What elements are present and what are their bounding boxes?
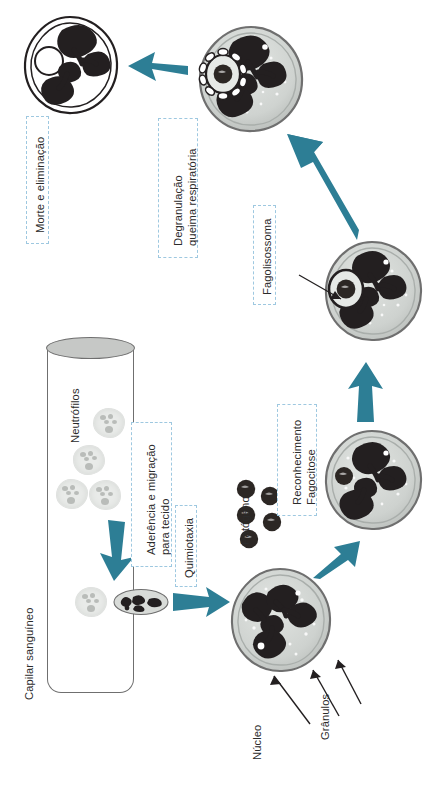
callout-degranulacao: Degranulação queima respiratória: [158, 118, 198, 258]
callout-aderencia-migracao: Aderência e migração para tecido: [131, 422, 172, 567]
vessel-neutrophil-migrating: [75, 587, 107, 617]
arrow-death-elimination: [126, 50, 188, 92]
callout-quimiotaxia-text: Quimiotaxia: [182, 518, 197, 578]
label-neutrofilos-text: Neutrófilos: [68, 388, 83, 443]
label-capilar-sanguineo-text: Capilar sanguíneo: [22, 607, 37, 700]
vessel-neutrophil: [93, 408, 125, 438]
arrow-degranulation: [283, 130, 361, 242]
arrow-to-phagolysosome: [345, 360, 387, 422]
callout-reconhecimento-fagocitose: Reconhecimento Fagocitose: [277, 404, 317, 516]
arrow-chemotaxis: [173, 587, 231, 619]
callout-fagolisossoma: Fagolisossoma: [253, 205, 276, 305]
callout-aderencia-line2: para tecido: [158, 499, 173, 555]
diagram-canvas: Capilar sanguíneo Neutrófilos: [0, 0, 430, 796]
label-patogeno-text: Patógeno: [238, 496, 253, 545]
degranulating-vacuole: [198, 49, 248, 100]
callout-quimiotaxia: Quimiotaxia: [175, 505, 197, 587]
callout-degranulacao-line1: Degranulação: [171, 175, 186, 246]
capillary-top-ellipse: [46, 337, 135, 359]
engulfed-pathogen: [335, 467, 353, 485]
pointer-granulos-b: [330, 648, 368, 708]
callout-degranulacao-line2: queima respiratória: [185, 148, 200, 246]
diapedesis-cell: [113, 587, 169, 617]
vessel-neutrophil: [73, 445, 105, 475]
label-nucleo-text: Núcleo: [250, 725, 265, 760]
callout-reconhecimento-line2: Fagocitose: [304, 449, 319, 505]
neutrophil-cell-degranulation: [197, 24, 305, 134]
callout-morte-eliminacao: Morte e eliminação: [26, 116, 49, 244]
neutrophil-cell-phagocytosis: [322, 428, 424, 532]
callout-reconhecimento-line1: Reconhecimento: [290, 420, 305, 505]
pointer-fagolisossoma: [297, 272, 353, 304]
callout-morte-text: Morte e eliminação: [33, 137, 48, 233]
vessel-neutrophil: [89, 480, 121, 510]
label-granulos-text: Grânulos: [318, 694, 333, 740]
callout-fagolisossoma-text: Fagolisossoma: [260, 218, 275, 295]
arrow-recognition: [311, 528, 363, 580]
neutrophil-cell-dead: [22, 14, 120, 116]
callout-aderencia-line1: Aderência e migração: [144, 444, 159, 555]
